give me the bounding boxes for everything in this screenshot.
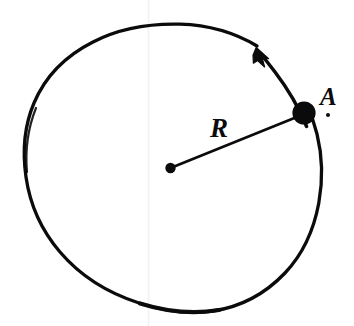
figure-background	[0, 0, 354, 326]
radius-label: R	[210, 115, 228, 142]
figure-canvas	[0, 0, 354, 326]
center-point	[165, 163, 175, 173]
object-a	[292, 101, 315, 124]
object-label-a: A	[320, 84, 337, 109]
ink-speck	[326, 113, 330, 117]
circular-motion-figure: R A	[0, 0, 354, 326]
